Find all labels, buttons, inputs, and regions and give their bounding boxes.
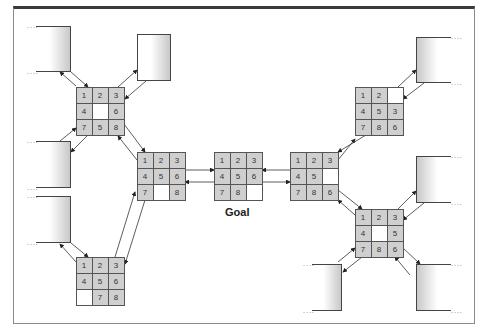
tile: 6 <box>108 273 125 290</box>
unexpanded-state-box <box>416 156 451 203</box>
tile: 7 <box>76 119 93 136</box>
continuation-dots: .... <box>27 194 39 198</box>
continuation-dots: .... <box>451 201 463 205</box>
tile: 4 <box>214 168 231 185</box>
tile: 2 <box>371 209 388 226</box>
tile: 1 <box>137 152 154 169</box>
tile: 3 <box>108 257 125 274</box>
puzzle-state-bottom-left: 1 2 3 4 5 6 7 8 <box>76 257 124 305</box>
continuation-dots: .... <box>451 309 463 313</box>
tile: 8 <box>306 184 323 201</box>
tile: 2 <box>92 87 109 104</box>
blank-tile <box>371 225 388 242</box>
continuation-dots: .... <box>451 81 463 85</box>
tile: 2 <box>371 87 388 104</box>
puzzle-state-top-right: 1 2 4 5 3 7 8 6 <box>355 87 403 135</box>
continuation-dots: .... <box>451 154 463 158</box>
goal-label: Goal <box>225 206 249 218</box>
tile: 4 <box>76 103 93 120</box>
puzzle-state-mid-right: 1 2 3 4 5 7 8 6 <box>290 152 338 200</box>
tile: 4 <box>290 168 307 185</box>
tile: 7 <box>355 241 372 258</box>
blank-tile <box>76 289 93 306</box>
tile: 3 <box>387 103 404 120</box>
continuation-dots: .... <box>451 262 463 266</box>
tile: 5 <box>92 273 109 290</box>
tile: 4 <box>137 168 154 185</box>
continuation-dots: .... <box>27 186 39 190</box>
tile: 5 <box>230 168 247 185</box>
unexpanded-state-box <box>416 264 451 311</box>
blank-tile <box>387 87 404 104</box>
tile: 5 <box>153 168 170 185</box>
tile: 4 <box>76 273 93 290</box>
continuation-dots: .... <box>451 35 463 39</box>
unexpanded-state-box <box>36 26 71 72</box>
tile: 3 <box>387 209 404 226</box>
tile: 2 <box>306 152 323 169</box>
tile: 6 <box>322 184 339 201</box>
unexpanded-state-box <box>312 264 342 311</box>
continuation-dots: .... <box>303 309 315 313</box>
tile: 3 <box>322 152 339 169</box>
tile: 6 <box>387 119 404 136</box>
tile: 5 <box>92 119 109 136</box>
blank-tile <box>322 168 339 185</box>
tile: 8 <box>169 184 186 201</box>
continuation-dots: .... <box>27 24 39 28</box>
tile: 6 <box>169 168 186 185</box>
tile: 4 <box>355 225 372 242</box>
puzzle-state-goal: 1 2 3 4 5 6 7 8 <box>214 152 262 200</box>
tile: 2 <box>230 152 247 169</box>
blank-tile <box>246 184 263 201</box>
tile: 6 <box>387 241 404 258</box>
continuation-dots: .... <box>27 241 39 245</box>
tile: 1 <box>355 87 372 104</box>
tile: 1 <box>214 152 231 169</box>
tile: 1 <box>76 87 93 104</box>
tile: 7 <box>137 184 154 201</box>
puzzle-state-top-left: 1 2 3 4 6 7 5 8 <box>76 87 124 135</box>
tile: 3 <box>246 152 263 169</box>
unexpanded-state-box <box>416 37 451 83</box>
tile: 5 <box>306 168 323 185</box>
tile: 8 <box>371 241 388 258</box>
tile: 1 <box>355 209 372 226</box>
puzzle-state-mid-left: 1 2 3 4 5 6 7 8 <box>137 152 185 200</box>
puzzle-state-bottom-right: 1 2 3 4 5 7 8 6 <box>355 209 403 257</box>
unexpanded-state-box <box>36 141 71 188</box>
blank-tile <box>153 184 170 201</box>
unexpanded-state-box <box>137 34 171 81</box>
blank-tile <box>92 103 109 120</box>
tile: 6 <box>108 103 125 120</box>
tile: 6 <box>246 168 263 185</box>
unexpanded-state-box <box>36 196 71 243</box>
tile: 8 <box>108 119 125 136</box>
tile: 7 <box>214 184 231 201</box>
tile: 2 <box>153 152 170 169</box>
tile: 3 <box>108 87 125 104</box>
tile: 4 <box>355 103 372 120</box>
tile: 3 <box>169 152 186 169</box>
tile: 5 <box>371 103 388 120</box>
tile: 5 <box>387 225 404 242</box>
tile: 1 <box>290 152 307 169</box>
tile: 7 <box>290 184 307 201</box>
continuation-dots: .... <box>27 70 39 74</box>
tile: 8 <box>371 119 388 136</box>
tile: 2 <box>92 257 109 274</box>
tile: 1 <box>76 257 93 274</box>
tile: 8 <box>230 184 247 201</box>
tile: 7 <box>355 119 372 136</box>
continuation-dots: .... <box>303 262 315 266</box>
tile: 8 <box>108 289 125 306</box>
continuation-dots: .... <box>27 139 39 143</box>
tile: 7 <box>92 289 109 306</box>
